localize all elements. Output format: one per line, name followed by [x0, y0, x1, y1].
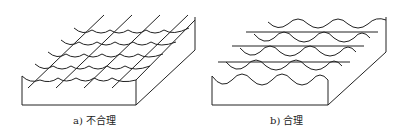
diagram-canvas — [0, 0, 403, 139]
figure-a-caption: a) 不合理 — [73, 112, 116, 127]
figure-b-block — [212, 17, 386, 105]
figure-b-caption: b) 合理 — [270, 112, 303, 127]
figure-a-block — [22, 15, 195, 105]
